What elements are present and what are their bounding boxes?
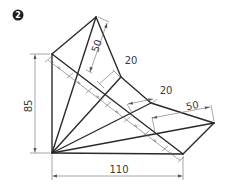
- dimension-top-50: 50: [86, 17, 109, 73]
- dimension-upper-20: 20: [97, 55, 137, 88]
- object-outline: [52, 17, 214, 154]
- equal-mark: =: [76, 79, 83, 86]
- dim-label-20-middle: 20: [160, 85, 173, 96]
- equal-mark: =: [169, 150, 176, 157]
- figure-number-badge: 2: [13, 10, 24, 21]
- dimension-width-110: 110: [52, 155, 183, 180]
- dim-label-50-right: 50: [185, 99, 200, 112]
- equal-mark: =: [114, 108, 121, 115]
- figure-number: 2: [15, 11, 21, 20]
- equal-mark: =: [56, 64, 63, 71]
- dim-label-50-top: 50: [89, 38, 103, 54]
- equal-mark: =: [152, 137, 159, 144]
- dimension-middle-20: 20: [127, 85, 172, 113]
- fan-lines: [52, 17, 214, 153]
- dim-label-85: 85: [23, 100, 34, 113]
- dimension-right-50: 50: [152, 99, 214, 133]
- drawing-canvas: 2 85: [0, 0, 235, 192]
- dim-label-20-upper: 20: [125, 55, 138, 66]
- dim-label-110: 110: [109, 164, 128, 175]
- equal-mark: =: [133, 122, 140, 129]
- dimension-height-85: 85: [23, 54, 50, 153]
